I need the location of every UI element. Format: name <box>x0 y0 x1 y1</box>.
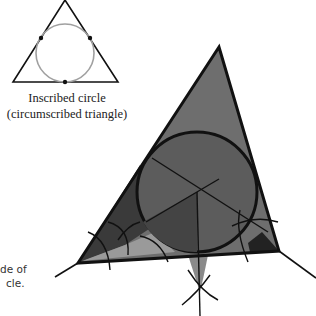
tangent-point-right <box>88 36 92 40</box>
extension-right <box>279 251 316 278</box>
small-triangle-figure <box>13 0 118 84</box>
caption-line-1: Inscribed circle <box>0 90 134 106</box>
caption-line-2: (circumscribed triangle) <box>0 106 134 122</box>
tangent-point-bottom <box>63 80 67 84</box>
small-incircle <box>36 24 94 82</box>
side-note-line-1: de of <box>0 262 27 276</box>
small-triangle <box>13 0 118 82</box>
tangent-point-left <box>39 36 43 40</box>
inscribed-circle-diagram <box>0 0 316 316</box>
large-construction <box>55 47 316 316</box>
extension-left <box>55 263 78 277</box>
side-note-line-2: cle. <box>6 276 25 290</box>
